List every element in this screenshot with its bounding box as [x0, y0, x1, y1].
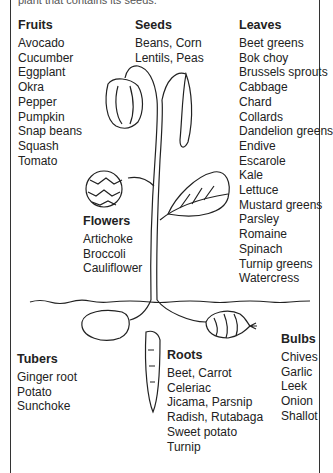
group-title: Seeds: [135, 18, 204, 32]
list-item: Potato: [17, 385, 77, 400]
group-list: Beet, Carrot Celeriac Jicama, Parsnip Ra…: [167, 366, 263, 454]
list-item: Chives: [281, 350, 318, 365]
list-item: Collards: [239, 110, 333, 125]
group-title: Tubers: [17, 352, 77, 366]
group-flowers: Flowers Artichoke Broccoli Cauliflower: [83, 214, 142, 276]
group-title: Roots: [167, 348, 263, 362]
group-roots: Roots Beet, Carrot Celeriac Jicama, Pars…: [167, 348, 263, 454]
list-item: Romaine: [239, 227, 333, 242]
carrot-icon: [145, 331, 160, 412]
list-item: Shallot: [281, 409, 318, 424]
group-list: Artichoke Broccoli Cauliflower: [83, 232, 142, 276]
group-fruits: Fruits Avocado Cucumber Eggplant Okra Pe…: [18, 18, 82, 168]
group-list: Beet greens Bok choy Brussels sprouts Ca…: [239, 36, 333, 286]
list-item: Chard: [239, 95, 333, 110]
group-list: Chives Garlic Leek Onion Shallot: [281, 350, 318, 424]
list-item: Beet, Carrot: [167, 366, 263, 381]
group-title: Flowers: [83, 214, 142, 228]
list-item: Lettuce: [239, 183, 333, 198]
list-item: Jicama, Parsnip: [167, 395, 263, 410]
group-list: Avocado Cucumber Eggplant Okra Pepper Pu…: [18, 36, 82, 168]
list-item: Avocado: [18, 36, 82, 51]
list-item: Ginger root: [17, 370, 77, 385]
list-item: Dandelion greens: [239, 124, 333, 139]
group-bulbs: Bulbs Chives Garlic Leek Onion Shallot: [281, 332, 318, 424]
list-item: Onion: [281, 394, 318, 409]
list-item: Turnip greens: [239, 257, 333, 272]
onion-icon: [206, 311, 250, 338]
pepper-icon: [106, 79, 142, 128]
list-item: Endive: [239, 139, 333, 154]
list-item: Cucumber: [18, 51, 82, 66]
list-item: Snap beans: [18, 124, 82, 139]
group-list: Beans, Corn Lentils, Peas: [135, 36, 204, 65]
list-item: Artichoke: [83, 232, 142, 247]
list-item: Spinach: [239, 242, 333, 257]
list-item: Brussels sprouts: [239, 65, 333, 80]
list-item: Sweet potato: [167, 425, 263, 440]
list-item: Eggplant: [18, 65, 82, 80]
list-item: Cauliflower: [83, 261, 142, 276]
list-item: Parsley: [239, 212, 333, 227]
list-item: Escarole: [239, 154, 333, 169]
list-item: Beet greens: [239, 36, 333, 51]
ground-line-icon: [30, 300, 310, 303]
group-leaves: Leaves Beet greens Bok choy Brussels spr…: [239, 18, 333, 286]
list-item: Garlic: [281, 365, 318, 380]
group-title: Leaves: [239, 18, 333, 32]
list-item: Tomato: [18, 154, 82, 169]
list-item: Squash: [18, 139, 82, 154]
list-item: Kale: [239, 168, 333, 183]
list-item: Cabbage: [239, 80, 333, 95]
list-item: Lentils, Peas: [135, 51, 204, 66]
group-tubers: Tubers Ginger root Potato Sunchoke: [17, 352, 77, 414]
list-item: Broccoli: [83, 247, 142, 262]
list-item: Radish, Rutabaga: [167, 410, 263, 425]
list-item: Bok choy: [239, 51, 333, 66]
group-seeds: Seeds Beans, Corn Lentils, Peas: [135, 18, 204, 65]
list-item: Pumpkin: [18, 110, 82, 125]
list-item: Beans, Corn: [135, 36, 204, 51]
group-list: Ginger root Potato Sunchoke: [17, 370, 77, 414]
list-item: Leek: [281, 379, 318, 394]
group-title: Fruits: [18, 18, 82, 32]
list-item: Sunchoke: [17, 399, 77, 414]
list-item: Pepper: [18, 95, 82, 110]
artichoke-icon: [86, 171, 122, 207]
group-title: Bulbs: [281, 332, 318, 346]
list-item: Watercress: [239, 271, 333, 286]
potato-icon: [82, 310, 129, 340]
list-item: Okra: [18, 80, 82, 95]
list-item: Mustard greens: [239, 198, 333, 213]
list-item: Celeriac: [167, 381, 263, 396]
pea-pod-icon: [180, 74, 192, 147]
list-item: Turnip: [167, 440, 263, 455]
